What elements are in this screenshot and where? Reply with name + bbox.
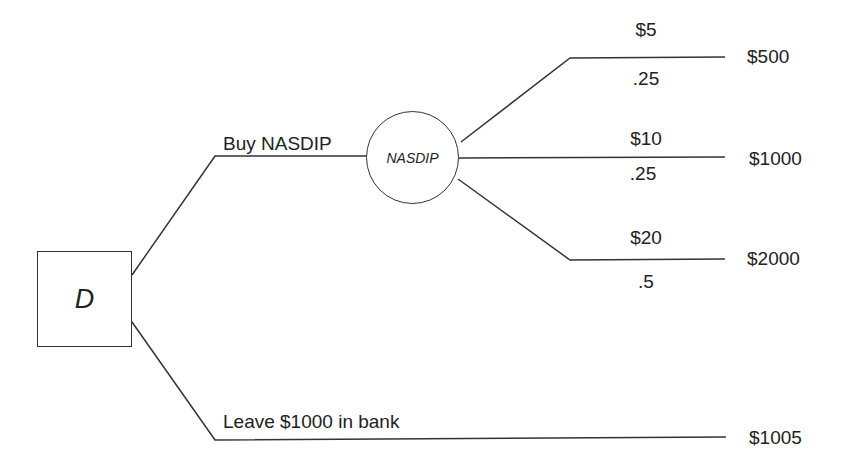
decision-label-leave: Leave $1000 in bank <box>223 412 399 431</box>
outcome-payoff: $1000 <box>749 149 802 168</box>
outcome-probability: .25 <box>633 69 659 88</box>
chance-node-label: NASDIP <box>386 150 438 166</box>
payoff-leave: $1005 <box>749 428 802 447</box>
outcome-probability: .5 <box>638 272 654 291</box>
outcome-price: $10 <box>630 129 662 148</box>
edge-leave <box>132 322 726 440</box>
outcome-price: $5 <box>635 20 656 39</box>
outcome-payoff: $500 <box>747 47 789 66</box>
edge-outcome-5 <box>461 57 725 142</box>
edge-outcome-10 <box>459 157 725 158</box>
edge-buy <box>132 156 366 275</box>
chance-node: NASDIP <box>366 111 459 204</box>
outcome-price: $20 <box>630 228 662 247</box>
decision-node-label: D <box>75 284 95 315</box>
edge-outcome-20 <box>458 179 725 260</box>
outcome-payoff: $2000 <box>747 249 800 268</box>
decision-node: D <box>37 251 132 347</box>
tree-edges <box>0 0 841 470</box>
outcome-probability: .25 <box>630 164 656 183</box>
decision-label-buy: Buy NASDIP <box>223 134 332 153</box>
